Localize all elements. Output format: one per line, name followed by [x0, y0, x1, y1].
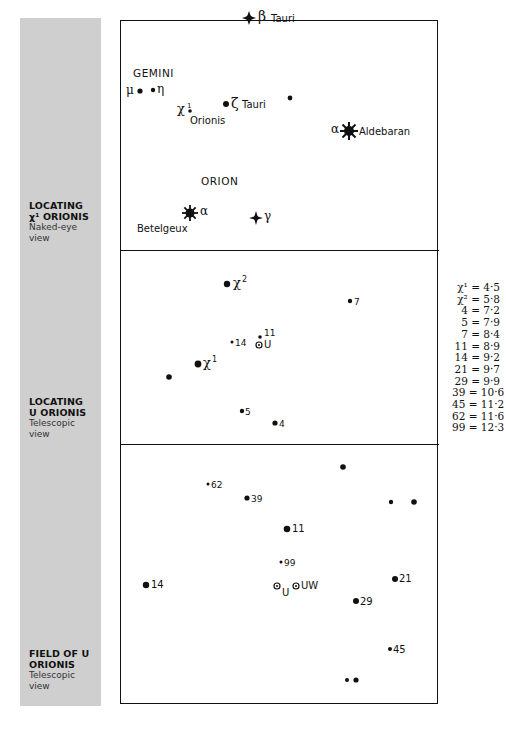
- chi2-star-icon: [224, 281, 230, 287]
- unnamed-star-icon: [340, 464, 346, 470]
- mu-label: μ: [126, 85, 134, 95]
- chi1-label: χ: [177, 104, 185, 114]
- magnitude-key: χ¹ = 4·5 χ² = 5·8 4 = 7·2 5 = 7·9 7 = 8·…: [452, 282, 500, 434]
- star-4-icon: [272, 420, 277, 425]
- star-4-label: 4: [279, 419, 285, 429]
- gamma-ori-star-icon: [249, 211, 263, 225]
- eta-label: η: [157, 84, 164, 94]
- mu-gem-star-icon: [137, 88, 142, 93]
- aldebaran-star-icon: [340, 122, 358, 140]
- u-orionis-variable-icon: [256, 342, 262, 348]
- chi1-superscript: 1: [187, 101, 191, 111]
- unnamed-star-icon: [389, 500, 393, 504]
- star-45-label: 45: [393, 645, 406, 655]
- gamma-ori-label: γ: [264, 211, 271, 221]
- star-11-label: 11: [264, 328, 275, 338]
- beta-tauri-greek-label: β: [258, 11, 266, 21]
- chi1-label: χ: [203, 358, 211, 368]
- star-7-icon: [348, 299, 352, 303]
- star-62-label: 62: [211, 480, 222, 490]
- eta-gem-star-icon: [151, 88, 155, 92]
- star-99-icon: [280, 561, 283, 564]
- zeta-greek-label: ζ: [231, 98, 239, 108]
- key-line: 45 = 11·2: [452, 399, 500, 411]
- chi2-superscript: 2: [242, 275, 247, 285]
- star-29-label: 29: [360, 597, 373, 607]
- zeta-tauri-star-icon: [223, 101, 229, 107]
- star-29-icon: [353, 598, 359, 604]
- chi1-star-icon: [195, 361, 202, 368]
- aldebaran-name-label: Aldebaran: [359, 127, 410, 137]
- chi1-superscript: 1: [212, 355, 217, 365]
- star-11-icon: [258, 335, 262, 339]
- unnamed-star-icon: [411, 499, 417, 505]
- star-21-icon: [392, 576, 398, 582]
- gemini-label: GEMINI: [133, 68, 174, 78]
- aldebaran-greek-label: α: [331, 124, 339, 134]
- unnamed-star-icon: [166, 374, 172, 380]
- star-symbols: [0, 0, 506, 743]
- unnamed-star-icon: [288, 96, 293, 101]
- uw-orionis-label: UW: [301, 581, 318, 591]
- key-line: χ¹ = 4·5: [452, 282, 500, 294]
- uw-orionis-variable-icon: [293, 583, 299, 589]
- star-45-icon: [388, 647, 392, 651]
- star-39-label: 39: [251, 494, 262, 504]
- chi2-label: χ: [233, 278, 241, 288]
- unnamed-star-icon: [353, 677, 358, 682]
- star-99-label: 99: [284, 558, 295, 568]
- star-7-label: 7: [354, 297, 360, 307]
- star-11-icon: [284, 526, 291, 533]
- beta-tauri-star-icon: [242, 11, 256, 25]
- star-39-icon: [244, 495, 249, 500]
- star-11-label: 11: [292, 524, 305, 534]
- star-62-icon: [207, 483, 210, 486]
- orion-label: ORION: [201, 176, 238, 186]
- u-orionis-label: U: [282, 588, 289, 598]
- betelgeux-name-label: Betelgeux: [137, 224, 188, 234]
- key-line: 99 = 12·3: [452, 422, 500, 434]
- star-5-label: 5: [245, 407, 251, 417]
- star-14-label: 14: [151, 580, 164, 590]
- star-14-icon: [231, 341, 234, 344]
- u-orionis-label: U: [264, 340, 271, 350]
- star-21-label: 21: [399, 574, 412, 584]
- u-orionis-variable-icon: [274, 583, 280, 589]
- orionis-label: Orionis: [190, 116, 225, 126]
- key-line: 7 = 8·4: [452, 329, 500, 341]
- key-line: 21 = 9·7: [452, 364, 500, 376]
- beta-tauri-name-label: Tauri: [271, 14, 295, 24]
- star-5-icon: [240, 409, 244, 413]
- star-14-label: 14: [235, 338, 246, 348]
- star-14-icon: [143, 582, 149, 588]
- zeta-tauri-name-label: Tauri: [242, 100, 266, 110]
- betelgeux-star-icon: [182, 205, 198, 221]
- unnamed-star-icon: [345, 678, 349, 682]
- betelgeux-greek-label: α: [200, 206, 208, 216]
